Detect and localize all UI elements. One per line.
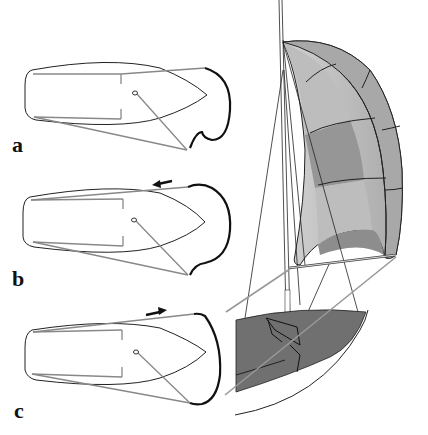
hull-plan-c (25, 307, 220, 404)
diagram-drawing (0, 0, 428, 435)
arrow-left-icon (152, 180, 172, 188)
spinnaker-diagram: a b c (0, 0, 428, 435)
hull-plan-a (25, 62, 230, 150)
boat-perspective (225, 0, 403, 415)
panel-label-a: a (12, 134, 23, 156)
hull-plan-b (23, 180, 230, 275)
panel-label-b: b (12, 268, 24, 290)
arrow-right-icon (146, 307, 167, 315)
panel-label-c: c (14, 400, 24, 422)
